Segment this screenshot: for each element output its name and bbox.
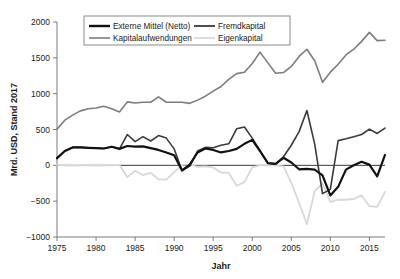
y-tick-label: −1000 — [26, 232, 50, 242]
y-tick-label: −500 — [31, 196, 50, 206]
y-tick-label: 0 — [45, 160, 50, 170]
chart-legend: Externe Mittel (Netto)FremdkapitalKapita… — [84, 16, 290, 45]
x-tick-label: 1985 — [126, 243, 145, 253]
x-tick-label: 2010 — [321, 243, 340, 253]
y-tick-label: 2000 — [31, 17, 50, 27]
legend-label: Kapitalaufwendungen — [113, 34, 192, 43]
y-tick-label: 1000 — [31, 89, 50, 99]
y-axis-title: Mrd. USD, Stand 2017 — [9, 83, 19, 176]
x-tick-label: 1995 — [204, 243, 223, 253]
legend-label: Eigenkapital — [218, 34, 263, 43]
legend-label: Fremdkapital — [218, 22, 266, 31]
x-axis-title: Jahr — [211, 261, 231, 271]
x-tick-label: 1975 — [48, 243, 67, 253]
legend-label: Externe Mittel (Netto) — [113, 22, 191, 31]
line-chart: 2000150010005000−500−1000 19751980198519… — [0, 0, 400, 279]
y-tick-label: 1500 — [31, 53, 50, 63]
x-tick-label: 1980 — [87, 243, 106, 253]
chart-container: 2000150010005000−500−1000 19751980198519… — [0, 0, 400, 279]
y-tick-label: 500 — [36, 125, 50, 135]
x-tick-label: 2005 — [282, 243, 301, 253]
x-tick-label: 1990 — [165, 243, 184, 253]
x-tick-label: 2015 — [360, 243, 379, 253]
x-tick-label: 2000 — [243, 243, 262, 253]
